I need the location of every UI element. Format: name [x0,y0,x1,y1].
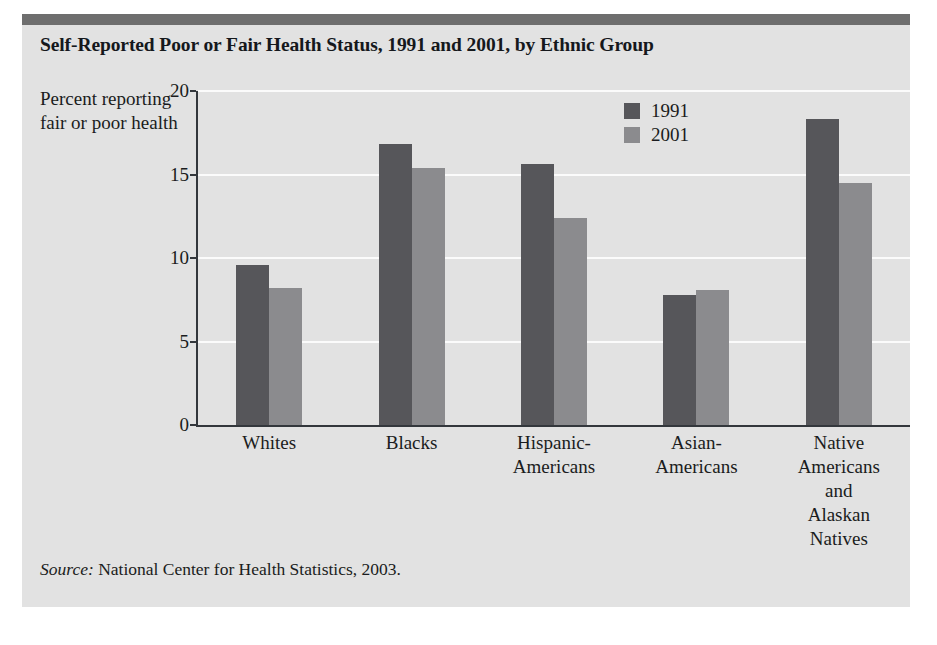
y-tick-label: 5 [180,330,190,352]
bar-2001[interactable] [839,183,872,425]
page-title: Self-Reported Poor or Fair Health Status… [40,34,880,56]
y-tick-label: 15 [170,163,189,185]
x-category-label: Whites [194,431,344,455]
bar-2001[interactable] [412,168,445,425]
x-category-label: Asian- Americans [621,431,771,479]
bar-1991[interactable] [236,265,269,425]
source-keyword: Source: [40,559,94,579]
bar-2001[interactable] [554,218,587,425]
x-category-label: Hispanic- Americans [479,431,629,479]
y-tick-label: 10 [170,247,189,269]
x-category-label: Blacks [337,431,487,455]
bar-1991[interactable] [663,295,696,425]
source-value: National Center for Health Statistics, 2… [94,559,401,579]
x-axis-line [196,425,910,427]
x-category-label: Native Americans and Alaskan Natives [764,431,914,551]
plot-area: 05101520 WhitesBlacksHispanic- Americans… [196,91,910,425]
figure-panel: Self-Reported Poor or Fair Health Status… [22,14,910,607]
bar-group: Hispanic- Americans [521,91,587,425]
bar-1991[interactable] [806,119,839,425]
bar-1991[interactable] [521,164,554,425]
bar-2001[interactable] [269,288,302,425]
y-tick-label: 0 [180,414,190,436]
bar-group: Native Americans and Alaskan Natives [806,91,872,425]
y-axis-title: Percent reporting fair or poor health [40,87,190,134]
source-note: Source: National Center for Health Stati… [40,559,401,580]
bar-group: Asian- Americans [663,91,729,425]
bar-group: Blacks [379,91,445,425]
y-tick-label: 20 [170,80,189,102]
bar-group: Whites [236,91,302,425]
bar-1991[interactable] [379,144,412,425]
bar-2001[interactable] [696,290,729,425]
header-rule [22,14,910,25]
bars-layer: WhitesBlacksHispanic- AmericansAsian- Am… [198,91,910,425]
